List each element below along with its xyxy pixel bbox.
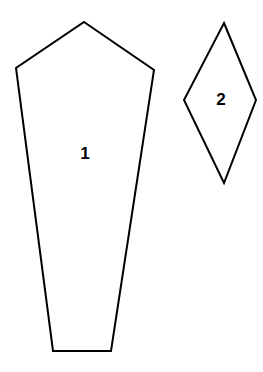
shape-1-label: 1 bbox=[80, 144, 89, 163]
shape-2-label: 2 bbox=[216, 90, 225, 109]
diagram-canvas: 1 2 bbox=[0, 0, 263, 372]
shape-1-outline[interactable] bbox=[16, 22, 154, 351]
pattern-pieces-diagram: 1 2 bbox=[0, 0, 263, 372]
